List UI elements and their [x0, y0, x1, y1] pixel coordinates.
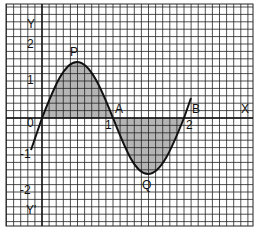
point-b-label: B	[192, 102, 200, 116]
y-tick-neg2: -2	[20, 183, 31, 197]
x-tick-1: 1	[105, 118, 112, 132]
y-tick-1: 1	[27, 73, 34, 87]
y-axis-label: Y	[27, 17, 35, 31]
point-p-label: P	[70, 45, 78, 59]
x-tick-0: 0	[27, 116, 34, 130]
y-neg-axis-label: Y'	[26, 203, 36, 217]
x-tick-2: 2	[186, 118, 193, 132]
graph-figure: Y 2 1 0 -1 -2 Y' 1 2 X P A Q B	[0, 0, 260, 233]
y-tick-neg1: -1	[20, 147, 31, 161]
y-tick-2: 2	[27, 37, 34, 51]
point-a-label: A	[115, 102, 123, 116]
point-q-label: Q	[142, 178, 151, 192]
x-axis-label: X	[241, 102, 249, 116]
